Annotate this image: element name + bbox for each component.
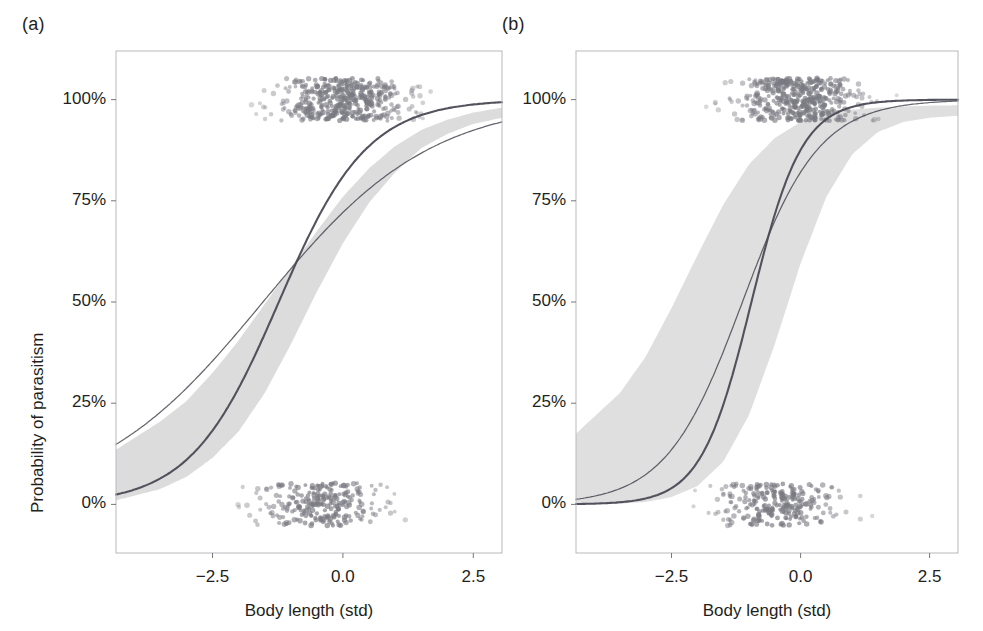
panel-b-label: (b)	[502, 14, 525, 35]
panel-b-ytick-label: 25%	[532, 392, 566, 412]
panel-b-ytick-label: 50%	[532, 291, 566, 311]
panel-a-ytick-label: 75%	[72, 190, 106, 210]
panel-b-xtick-label: −2.5	[632, 567, 712, 587]
panel-a-yaxis-title: Probability of parasitism	[28, 333, 48, 513]
panel-a-xtick-label: 2.5	[433, 567, 513, 587]
panel-a-ytick-label: 25%	[72, 392, 106, 412]
panel-b-ytick-label: 75%	[532, 190, 566, 210]
panel-b-ytick-label: 0%	[541, 493, 566, 513]
panel-b-xaxis-title: Body length (std)	[576, 601, 958, 621]
panel-b-xtick-label: 2.5	[890, 567, 970, 587]
panel-a-xtick-label: 0.0	[303, 567, 383, 587]
panel-a-ytick-label: 50%	[72, 291, 106, 311]
panel-a-ytick-label: 100%	[63, 89, 106, 109]
panel-b-ytick-label: 100%	[523, 89, 566, 109]
panel-a-xaxis-title: Body length (std)	[116, 601, 502, 621]
panel-b-xtick-label: 0.0	[761, 567, 841, 587]
panel-a-label: (a)	[22, 14, 45, 35]
figure-two-panel-logistic: (a) (b) 0%25%50%75%100%−2.50.02.5Body le…	[0, 0, 983, 631]
panel-a-xtick-label: −2.5	[173, 567, 253, 587]
panel-a-ytick-label: 0%	[81, 493, 106, 513]
